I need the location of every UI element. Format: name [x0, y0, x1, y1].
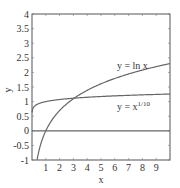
annotation-label: y = ln x [117, 60, 148, 71]
y-tick-label: 4 [24, 9, 29, 20]
x-axis-label: x [99, 174, 104, 185]
x-tick-label: 2 [57, 162, 62, 173]
y-tick-label: 0.5 [17, 111, 30, 122]
series-layer [32, 64, 170, 160]
y-tick-label: 1 [24, 96, 29, 107]
annotations: y = ln xy = x1/10 [117, 60, 151, 112]
y-tick-label: -1 [21, 155, 29, 166]
y-tick-label: -0.5 [13, 140, 29, 151]
x-tick-label: 5 [99, 162, 104, 173]
y-axis-label: y [2, 88, 13, 93]
chart: -1-0.500.511.522.533.54 123456789 x y y … [0, 0, 180, 188]
series-line [37, 64, 170, 160]
y-tick-label: 0 [24, 125, 29, 136]
y-tick-label: 2 [24, 67, 29, 78]
y-tick-label: 3.5 [17, 23, 30, 34]
y-axis-ticks: -1-0.500.511.522.533.54 [13, 9, 170, 166]
plot-frame [32, 14, 170, 160]
x-axis-ticks: 123456789 [43, 14, 158, 173]
y-tick-label: 2.5 [17, 52, 30, 63]
x-tick-label: 7 [126, 162, 131, 173]
x-tick-label: 4 [85, 162, 90, 173]
x-tick-label: 3 [71, 162, 76, 173]
x-tick-label: 9 [154, 162, 159, 173]
annotation-label: y = x1/10 [117, 100, 151, 112]
y-tick-label: 3 [24, 38, 29, 49]
y-tick-label: 1.5 [17, 82, 30, 93]
x-tick-label: 1 [43, 162, 48, 173]
x-tick-label: 6 [112, 162, 117, 173]
x-tick-label: 8 [140, 162, 145, 173]
